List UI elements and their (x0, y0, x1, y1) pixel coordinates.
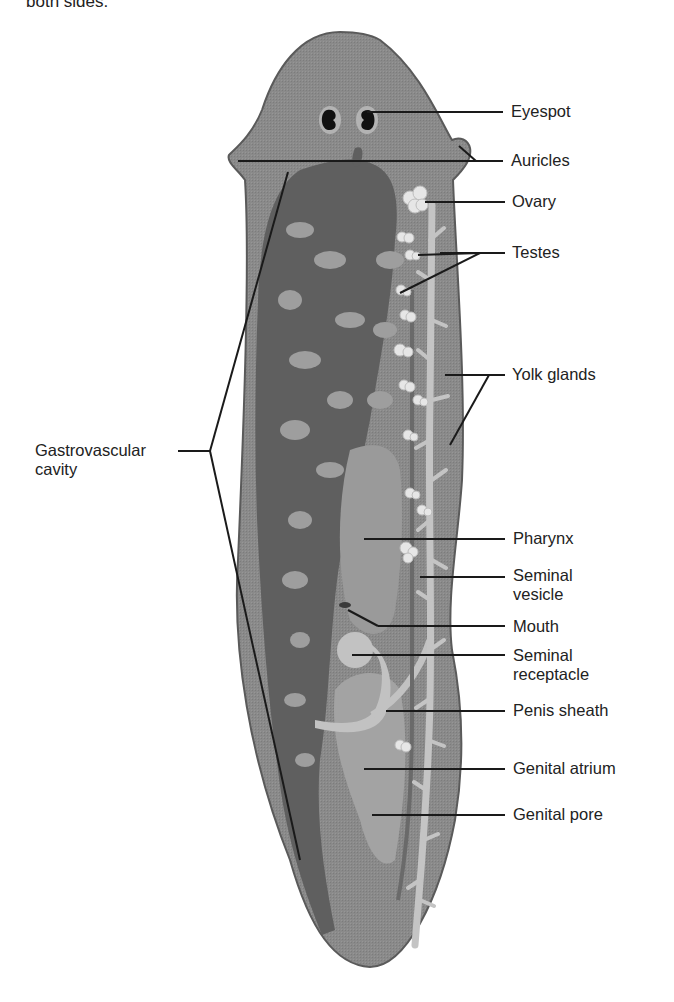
label-ovary: Ovary (512, 192, 556, 211)
mouth (339, 602, 351, 608)
label-mouth: Mouth (513, 617, 559, 636)
label-genital-atrium: Genital atrium (513, 759, 616, 778)
testis (397, 232, 414, 243)
label-seminal-receptacle-line1: Seminal (513, 646, 589, 665)
label-pharynx: Pharynx (513, 529, 574, 548)
label-seminal-receptacle-line2: receptacle (513, 665, 589, 684)
label-gastrovascular-line1: Gastrovascular (35, 441, 146, 460)
label-seminal-vesicle-line2: vesicle (513, 585, 573, 604)
eyespot-left (319, 106, 341, 134)
label-penis-sheath: Penis sheath (513, 701, 608, 720)
label-gastrovascular-line2: cavity (35, 460, 146, 479)
label-gastrovascular-cavity: Gastrovascular cavity (35, 441, 146, 479)
eyespot-right (356, 106, 378, 134)
label-testes: Testes (512, 243, 560, 262)
label-genital-pore: Genital pore (513, 805, 603, 824)
label-yolk-glands: Yolk glands (512, 365, 596, 384)
label-eyespot: Eyespot (511, 102, 571, 121)
label-seminal-vesicle-line1: Seminal (513, 566, 573, 585)
label-auricles: Auricles (511, 151, 570, 170)
planarian-diagram (0, 0, 674, 1002)
label-seminal-vesicle: Seminal vesicle (513, 566, 573, 604)
label-seminal-receptacle: Seminal receptacle (513, 646, 589, 684)
